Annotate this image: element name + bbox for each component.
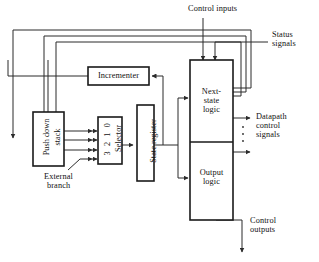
label-next-state-logic-line3: logic xyxy=(190,105,233,115)
label-push-down-stack-line2: stack xyxy=(53,110,63,164)
block-logic-container[interactable] xyxy=(190,60,233,220)
label-datapath-line3: signals xyxy=(256,130,280,140)
control-outputs-wire xyxy=(216,220,242,252)
label-push-down-stack-line1: Push down xyxy=(42,110,52,164)
label-control-outputs-line2: outputs xyxy=(250,225,275,235)
label-status-signals-line2: signals xyxy=(272,39,296,49)
datapath-ellipsis-dots xyxy=(242,126,244,142)
label-external-branch-line2: branch xyxy=(47,181,70,191)
block-diagram-canvas: Control inputs Status signals Datapath c… xyxy=(0,0,319,262)
label-state-register: State register xyxy=(149,103,159,179)
external-branch-wire xyxy=(68,159,92,170)
datapath-control-output-wires xyxy=(233,118,250,152)
label-control-inputs: Control inputs xyxy=(188,4,237,14)
label-output-logic-line2: logic xyxy=(190,177,233,187)
label-incrementer: Incrementer xyxy=(88,71,149,81)
selector-input-arrows xyxy=(92,131,97,159)
label-selector-ports: 3 2 1 0 xyxy=(103,115,113,162)
label-selector: Selector xyxy=(114,115,124,162)
state-register-output-bus xyxy=(154,98,188,178)
